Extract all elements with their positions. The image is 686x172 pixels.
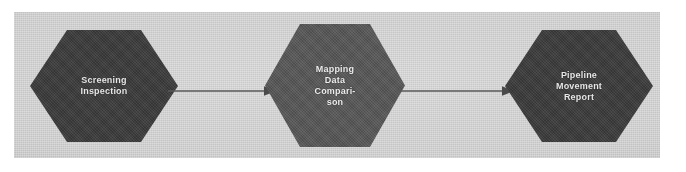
flow-node-label: Mapping Data Compari- son (308, 64, 361, 108)
flow-connector-arrow (168, 84, 278, 98)
flow-connector-arrow (396, 84, 516, 98)
flow-node-label: Pipeline Movement Report (550, 70, 608, 103)
diagram-canvas: Screening Inspection Mapping Data Compar… (0, 0, 686, 172)
flow-node-label: Screening Inspection (74, 75, 133, 97)
